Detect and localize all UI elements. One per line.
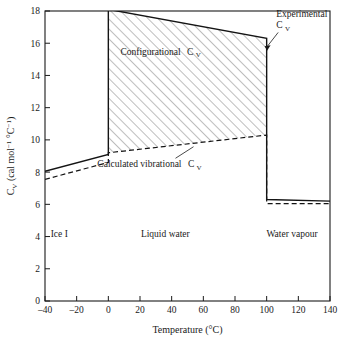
y-tick-label: 2 <box>35 264 40 274</box>
chart-svg: –40–20020406080100120140 024681012141618… <box>0 0 344 344</box>
x-tick-label: 60 <box>199 305 209 315</box>
y-tick-label: 12 <box>31 103 41 113</box>
y-tick-label: 10 <box>31 135 41 145</box>
capacity-chart-figure: –40–20020406080100120140 024681012141618… <box>0 0 344 344</box>
x-tick-label: 100 <box>260 305 275 315</box>
y-tick-label: 6 <box>35 200 40 210</box>
y-tick-label: 4 <box>35 232 40 242</box>
x-tick-label: 120 <box>291 305 306 315</box>
x-tick-label: 140 <box>323 305 338 315</box>
y-tick-label: 16 <box>31 39 41 49</box>
x-tick-label: –40 <box>37 305 53 315</box>
ice-region: Ice I <box>51 229 68 239</box>
y-tick-label: 0 <box>35 296 40 306</box>
y-tick-label: 14 <box>31 71 41 81</box>
x-tick-label: 0 <box>106 305 111 315</box>
x-tick-label: 40 <box>167 305 177 315</box>
y-tick-label: 8 <box>35 168 40 178</box>
experimental-label-line1: Experimental <box>276 9 328 19</box>
liquid-region: Liquid water <box>141 229 191 239</box>
x-axis-title: Temperature (°C) <box>152 324 222 336</box>
y-tick-label: 18 <box>31 6 41 16</box>
x-tick-label: 80 <box>230 305 240 315</box>
x-tick-label: –20 <box>69 305 85 315</box>
x-tick-label: 20 <box>135 305 145 315</box>
vapour-region: Water vapour <box>266 229 318 239</box>
